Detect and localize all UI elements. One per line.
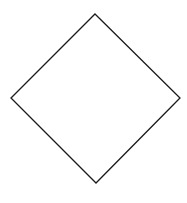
diagram-canvas	[0, 0, 187, 203]
diamond-shape	[11, 14, 180, 183]
